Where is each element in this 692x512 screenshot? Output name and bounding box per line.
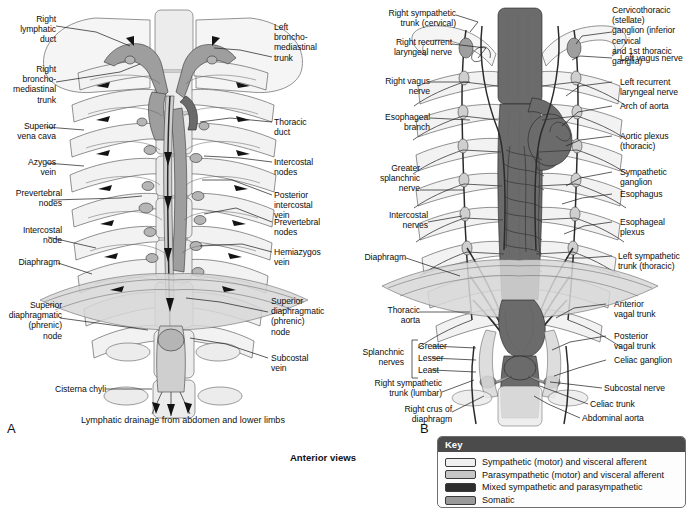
panel-b-letter: B <box>420 421 429 436</box>
key-row-mixed: Mixed sympathetic and parasympathetic <box>445 481 685 494</box>
label-left-sympathetic-trunk-thoracic: Left sympathetic trunk (thoracic) <box>618 251 692 271</box>
label-cisterna-chyli: Cisterna chyli <box>34 384 106 394</box>
label-intercostal-nerves: Intercostal nerves <box>360 210 428 230</box>
label-hemiazygos-vein: Hemiazygos vein <box>274 247 344 267</box>
label-prevertebral-nodes-right: Prevertebral nodes <box>274 217 344 237</box>
label-right-sympathetic-trunk-cervical: Right sympathetic trunk (cervical) <box>356 8 456 28</box>
key-row-parasympathetic: Parasympathetic (motor) and visceral aff… <box>445 469 685 482</box>
label-right-lymphatic-duct: Right lymphatic duct <box>2 14 56 45</box>
label-intercostal-nodes: Intercostal nodes <box>274 157 344 177</box>
label-thoracic-duct: Thoracic duct <box>274 117 344 137</box>
label-right-crus-of-diaphragm: Right crus of diaphragm <box>372 404 452 424</box>
label-superior-diaphragmatic-node-right: Superior diaphragmatic (phrenic) node <box>271 296 345 337</box>
label-right-sympathetic-trunk-lumbar: Right sympathetic trunk (lumbar) <box>342 378 442 398</box>
label-greater-splanchnic-nerve: Greater splanchnic nerve <box>360 163 420 194</box>
label-abdominal-aorta: Abdominal aorta <box>582 413 674 423</box>
label-azygos-vein: Azygos vein <box>0 157 56 177</box>
label-superior-diaphragmatic-node-left: Superior diaphragmatic (phrenic) node <box>0 300 62 341</box>
key-row-somatic: Somatic <box>445 494 685 507</box>
key-items: Sympathetic (motor) and visceral afferen… <box>438 452 685 506</box>
label-celiac-trunk: Celiac trunk <box>590 399 674 409</box>
label-splanchnic-nerves: Splanchnic nerves <box>338 347 404 367</box>
anatomy-figure: Right lymphatic duct Right broncho- medi… <box>0 0 692 512</box>
key-label-mixed: Mixed sympathetic and parasympathetic <box>482 482 643 492</box>
label-thoracic-aorta: Thoracic aorta <box>362 305 420 325</box>
label-right-recurrent-laryngeal-nerve: Right recurrent laryngeal nerve <box>356 37 452 57</box>
label-diaphragm-a: Diaphragm <box>0 257 60 267</box>
label-right-vagus-nerve: Right vagus nerve <box>362 76 430 96</box>
label-splanchnic-greater: Greater <box>418 341 464 351</box>
label-splanchnic-lesser: Lesser <box>418 353 464 363</box>
label-esophageal-branch: Esophageal branch <box>356 112 430 132</box>
panel-a-letter: A <box>7 421 16 436</box>
label-aortic-plexus-thoracic: Aortic plexus (thoracic) <box>620 131 692 151</box>
label-sympathetic-ganglion: Sympathetic ganglion <box>620 167 692 187</box>
key-label-somatic: Somatic <box>482 495 515 505</box>
key-swatch-mixed <box>445 483 476 492</box>
key-title: Key <box>438 437 685 452</box>
label-left-bronchomediastinal-trunk: Left broncho- mediastinal trunk <box>274 22 344 63</box>
label-esophageal-plexus: Esophageal plexus <box>620 217 692 237</box>
label-superior-vena-cava: Superior vena cava <box>0 121 56 141</box>
label-subcostal-vein: Subcostal vein <box>271 353 345 373</box>
label-anterior-vagal-trunk: Anterior vagal trunk <box>614 299 690 319</box>
key-row-sympathetic: Sympathetic (motor) and visceral afferen… <box>445 456 685 469</box>
key-label-parasympathetic: Parasympathetic (motor) and visceral aff… <box>482 470 664 480</box>
label-arch-of-aorta: Arch of aorta <box>620 101 692 111</box>
key-label-sympathetic: Sympathetic (motor) and visceral afferen… <box>482 457 646 467</box>
label-intercostal-node: Intercostal node <box>0 225 62 245</box>
label-left-vagus-nerve: Left vagus nerve <box>620 53 692 63</box>
figure-sub-caption: Lymphatic drainage from abdomen and lowe… <box>60 415 306 425</box>
key-swatch-sympathetic <box>445 458 476 467</box>
label-splanchnic-least: Least <box>418 365 464 375</box>
label-left-recurrent-laryngeal-nerve: Left recurrent laryngeal nerve <box>620 77 692 97</box>
key-swatch-parasympathetic <box>445 470 476 479</box>
label-right-bronchomediastinal-trunk: Right broncho- mediastinal trunk <box>2 64 56 105</box>
key-swatch-somatic <box>445 496 476 505</box>
label-prevertebral-nodes: Prevertebral nodes <box>0 188 62 208</box>
label-esophagus: Esophagus <box>620 189 692 199</box>
key-legend: Key Sympathetic (motor) and visceral aff… <box>437 436 686 508</box>
figure-caption: Anterior views <box>268 452 378 463</box>
label-diaphragm-b: Diaphragm <box>346 252 406 262</box>
label-posterior-vagal-trunk: Posterior vagal trunk <box>614 331 690 351</box>
label-celiac-ganglion: Celiac ganglion <box>614 355 692 365</box>
label-subcostal-nerve: Subcostal nerve <box>604 383 688 393</box>
